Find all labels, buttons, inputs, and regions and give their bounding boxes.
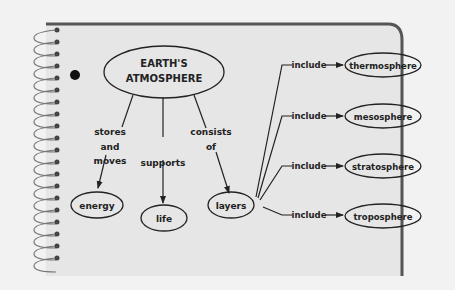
link-include-stratosphere: include <box>292 161 327 171</box>
punch-hole <box>70 70 80 80</box>
node-troposphere-label: troposphere <box>354 212 413 222</box>
node-layers-label: layers <box>216 201 247 211</box>
link-moves: moves <box>94 156 127 166</box>
link-consists: consists <box>190 127 231 137</box>
link-supports: supports <box>141 158 186 168</box>
concept-map-canvas: EARTH'S ATMOSPHERE energy life layers th… <box>0 0 455 290</box>
node-life-label: life <box>156 214 172 224</box>
node-mesosphere-label: mesosphere <box>354 112 413 122</box>
node-energy-label: energy <box>79 201 114 211</box>
central-node-line1: EARTH'S <box>140 58 187 69</box>
link-include-thermosphere: include <box>292 60 327 70</box>
link-include-mesosphere: include <box>292 111 327 121</box>
link-include-troposphere: include <box>292 210 327 220</box>
link-of: of <box>206 142 216 152</box>
link-stores: stores <box>94 127 126 137</box>
node-thermosphere-label: thermosphere <box>349 61 417 71</box>
node-stratosphere-label: stratosphere <box>352 162 414 172</box>
central-node-line2: ATMOSPHERE <box>126 73 203 84</box>
link-and: and <box>101 142 120 152</box>
